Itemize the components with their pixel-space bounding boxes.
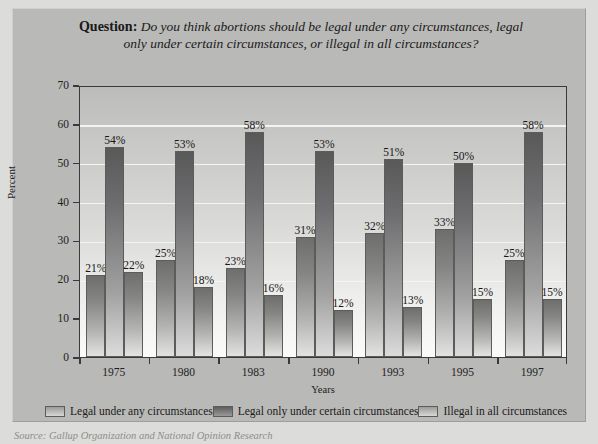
x-axis-label-1993: 1993 — [363, 366, 423, 378]
bar-1975-series-0 — [86, 275, 105, 357]
x-axis-title: Years — [79, 384, 567, 395]
bar-value-label: 51% — [376, 146, 411, 158]
bar-value-label: 15% — [465, 286, 500, 298]
bar-1995-series-2 — [473, 299, 492, 357]
x-axis-tick — [149, 358, 151, 364]
bar-value-label: 53% — [307, 138, 342, 150]
title-line-2: only under certain circumstances, or ill… — [43, 35, 559, 52]
bar-1997-series-0 — [505, 260, 524, 357]
bar-value-label: 16% — [256, 282, 291, 294]
bar-1993-series-1 — [384, 159, 403, 357]
bar-1990-series-2 — [334, 310, 353, 357]
y-axis-label: 30 — [43, 234, 69, 246]
x-axis-label-1995: 1995 — [432, 366, 492, 378]
legend-swatch-icon — [45, 406, 65, 417]
legend-item-1[interactable]: Legal only under certain circumstances — [213, 405, 419, 417]
x-axis-label-1997: 1997 — [502, 366, 562, 378]
x-axis-tick — [218, 358, 220, 364]
bar-1975-series-1 — [105, 147, 124, 357]
x-axis-tick — [288, 358, 290, 364]
x-axis-tick — [566, 358, 568, 364]
title-line-1: Question: Do you think abortions should … — [43, 18, 559, 35]
bar-1990-series-1 — [315, 151, 334, 357]
x-axis-label-1990: 1990 — [293, 366, 353, 378]
x-axis-tick — [428, 358, 430, 364]
title-text-2: only under certain circumstances, or ill… — [124, 36, 479, 51]
x-axis-label-1975: 1975 — [84, 366, 144, 378]
legend-label: Legal only under certain circumstances — [238, 405, 419, 417]
bar-1997-series-1 — [524, 132, 543, 357]
bar-value-label: 22% — [116, 259, 151, 271]
source-note: Source: Gallup Organization and National… — [14, 430, 272, 441]
legend-swatch-icon — [213, 406, 233, 417]
bar-1995-series-1 — [454, 163, 473, 357]
x-axis-label-1980: 1980 — [154, 366, 214, 378]
bar-1980-series-2 — [194, 287, 213, 357]
bar-value-label: 54% — [97, 134, 132, 146]
bar-1995-series-0 — [435, 229, 454, 357]
gridline — [80, 125, 566, 127]
bar-1983-series-0 — [226, 268, 245, 357]
bar-value-label: 53% — [167, 138, 202, 150]
legend-item-0[interactable]: Legal under any circumstances — [45, 405, 213, 417]
y-axis-label: 70 — [43, 79, 69, 91]
bar-value-label: 58% — [516, 119, 551, 131]
bar-1993-series-0 — [365, 233, 384, 357]
legend-swatch-icon — [418, 406, 438, 417]
plot-area: 21%54%22%25%53%18%23%58%16%31%53%12%32%5… — [79, 86, 567, 358]
bar-value-label: 18% — [186, 274, 221, 286]
title-question-label: Question: — [79, 19, 137, 34]
figure-container: Question: Do you think abortions should … — [0, 0, 598, 444]
x-axis-tick — [358, 358, 360, 364]
bar-value-label: 15% — [535, 286, 567, 298]
chart-title: Question: Do you think abortions should … — [43, 18, 559, 52]
title-text-1: Do you think abortions should be legal u… — [141, 19, 523, 34]
x-axis-tick — [79, 358, 81, 364]
bar-1975-series-2 — [124, 272, 143, 357]
bar-value-label: 58% — [237, 119, 272, 131]
y-axis-label: 10 — [43, 312, 69, 324]
bar-value-label: 13% — [395, 294, 430, 306]
bar-1983-series-1 — [245, 132, 264, 357]
bar-1980-series-0 — [156, 260, 175, 357]
legend-item-2[interactable]: Illegal in all circumstances — [418, 405, 567, 417]
bar-value-label: 50% — [446, 150, 481, 162]
y-axis-title: Percent — [5, 166, 17, 199]
x-axis-label-1983: 1983 — [223, 366, 283, 378]
y-axis-label: 20 — [43, 273, 69, 285]
bar-1997-series-2 — [543, 299, 562, 357]
y-axis-label: 0 — [43, 351, 69, 363]
bar-1983-series-2 — [264, 295, 283, 357]
legend-label: Legal under any circumstances — [70, 405, 213, 417]
y-axis-label: 50 — [43, 157, 69, 169]
chart-legend: Legal under any circumstancesLegal only … — [33, 400, 569, 422]
y-axis-label: 60 — [43, 118, 69, 130]
bar-1990-series-0 — [296, 237, 315, 357]
bar-1980-series-1 — [175, 151, 194, 357]
y-axis-label: 40 — [43, 196, 69, 208]
figure-panel: Question: Do you think abortions should … — [12, 8, 586, 422]
x-axis-tick — [497, 358, 499, 364]
bar-value-label: 12% — [326, 297, 361, 309]
legend-label: Illegal in all circumstances — [443, 405, 567, 417]
bar-1993-series-2 — [403, 307, 422, 358]
